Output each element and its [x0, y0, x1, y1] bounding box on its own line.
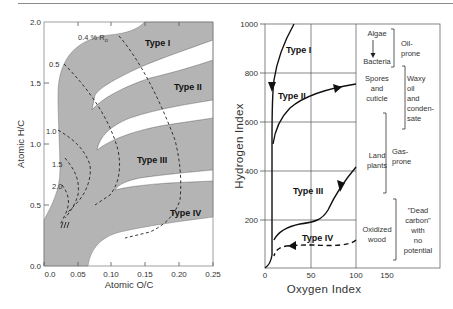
type-i-curve: [265, 24, 294, 268]
x-tick-4: 0.20: [171, 270, 187, 279]
and-label: and: [407, 94, 420, 103]
type-i-label: Type I: [145, 38, 170, 48]
source-labels: Algae Bacteria Spores and cuticle Land p…: [362, 29, 391, 244]
oi-tick-150: 150: [380, 271, 394, 280]
hi-tick-400: 400: [245, 167, 259, 176]
with-label: with: [410, 226, 424, 235]
type-i-arrow-icon: [268, 82, 276, 92]
x-tick-5: 0.25: [205, 270, 221, 279]
y-tick-1: 0.5: [30, 201, 42, 210]
figure-canvas: 0.0 0.05 0.10 0.15 0.20 0.25 0.0 0.5 1.0…: [0, 0, 453, 309]
x-tick-3: 0.15: [137, 270, 153, 279]
hi-type-i-label: Type I: [286, 45, 311, 55]
hi-type-iv-label: Type IV: [302, 233, 333, 243]
spores-label: Spores: [365, 74, 389, 83]
gas-prone-label-2: prone: [392, 157, 411, 166]
ro-1-5-label: 1.5: [52, 160, 62, 169]
type-iii-curve: [274, 167, 356, 240]
oxygen-index-label: Oxygen Index: [287, 283, 362, 295]
right-y-ticks: [260, 24, 265, 220]
waxy-label: Waxy: [407, 74, 426, 83]
type-iv-arrow-icon: [288, 241, 296, 250]
cuticle-label: cuticle: [366, 94, 387, 103]
x-axis-label: Atomic O/C: [105, 279, 154, 290]
left-y-ticks: [44, 83, 49, 205]
oi-tick-100: 100: [349, 271, 363, 280]
left-y-tick-labels: 0.0 0.5 1.0 1.5 2.0: [30, 18, 42, 271]
plants-label: plants: [367, 161, 387, 170]
type-iv-label: Type IV: [170, 208, 201, 218]
y-tick-3: 1.5: [30, 79, 42, 88]
carbon-label: carbon": [405, 216, 431, 225]
sate-label: sate: [407, 114, 421, 123]
hydrogen-index-label: Hydrogen Index: [233, 103, 245, 188]
oil-prone-label-2: prone: [401, 49, 420, 58]
bracket-spores: [402, 66, 405, 129]
hi-type-ii-label: Type II: [278, 91, 306, 101]
wood-label: wood: [367, 235, 386, 244]
y-tick-0: 0.0: [30, 262, 42, 271]
bracket-wood: [393, 199, 396, 260]
ro-0-5-label: 0.5: [49, 60, 59, 69]
van-krevelen-chart: 0.0 0.05 0.10 0.15 0.20 0.25 0.0 0.5 1.0…: [15, 18, 221, 290]
left-x-tick-labels: 0.0 0.05 0.10 0.15 0.20 0.25: [44, 270, 221, 279]
oi-tick-50: 50: [307, 271, 316, 280]
no-label: no: [414, 236, 422, 245]
hi-tick-200: 200: [245, 216, 259, 225]
algae-to-bacteria-arrow-icon: [371, 40, 376, 58]
ro-2-0-label: 2.0: [52, 182, 62, 191]
evolution-curves: [265, 24, 356, 268]
oxidized-label: Oxidized: [362, 225, 391, 234]
hi-oi-chart: 200 400 600 800 1000 0 50 100 150 Oxygen…: [233, 20, 440, 295]
type-iii-label: Type III: [137, 155, 167, 165]
land-label: Land: [369, 151, 386, 160]
x-tick-1: 0.05: [70, 270, 86, 279]
bacteria-label: Bacteria: [363, 57, 391, 66]
type-ii-label: Type II: [174, 82, 202, 92]
y-tick-2: 1.0: [30, 140, 42, 149]
spores-and-label: and: [371, 84, 384, 93]
oil-prone-label-1: Oil-: [401, 39, 413, 48]
curve-arrows: [268, 82, 345, 250]
oil-label: oil: [407, 84, 415, 93]
gas-prone-label-1: Gas-: [392, 147, 409, 156]
dead-label: "Dead: [408, 206, 429, 215]
ro-1-0-label: 1.0: [46, 127, 56, 136]
hi-tick-800: 800: [245, 69, 259, 78]
x-tick-0: 0.0: [44, 270, 56, 279]
potential-labels: Oil- prone Waxy oil and conden- sate Gas…: [392, 39, 435, 255]
ro-0-4-label: 0.4 % Ro: [78, 33, 108, 43]
hi-tick-600: 600: [245, 118, 259, 127]
right-x-tick-labels: 0 50 100 150: [263, 271, 394, 280]
hi-tick-1000: 1000: [240, 20, 258, 29]
hi-type-iii-label: Type III: [293, 186, 323, 196]
bracket-algae-bacteria: [391, 29, 394, 67]
conden-label: conden-: [407, 104, 435, 113]
y-tick-4: 2.0: [30, 18, 42, 27]
algae-label: Algae: [367, 29, 386, 38]
y-axis-label: Atomic H/C: [15, 120, 26, 168]
potential-label: potential: [404, 246, 433, 255]
type-ii-arrow-icon: [333, 84, 342, 93]
oi-tick-0: 0: [263, 271, 268, 280]
x-tick-2: 0.10: [103, 270, 119, 279]
